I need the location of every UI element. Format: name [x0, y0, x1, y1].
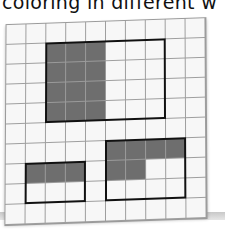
- grid-cell: [186, 118, 206, 139]
- grid-cell: [6, 64, 26, 85]
- grid-cell: [166, 118, 186, 139]
- grid-cell: [186, 38, 206, 59]
- grid-cell: [26, 103, 46, 124]
- grid-cell: [6, 24, 26, 44]
- grid-cell: [146, 199, 166, 220]
- grid-cell: [66, 142, 86, 163]
- grid-cell: [26, 43, 46, 64]
- grid-cell: [26, 63, 46, 84]
- grid-cell: [146, 99, 166, 120]
- grid-cell: [46, 23, 66, 43]
- grid-cell: [86, 201, 106, 222]
- shaded-cell: [166, 138, 186, 159]
- grid-cell: [66, 182, 86, 203]
- shaded-cell: [86, 41, 106, 62]
- shaded-cell: [66, 62, 86, 83]
- shaded-cell: [46, 43, 66, 64]
- grid-cell: [166, 199, 186, 220]
- grid-cell: [126, 180, 146, 201]
- grid-cell: [186, 158, 206, 179]
- grid-cell: [166, 178, 186, 199]
- grid-cell: [146, 79, 166, 100]
- shaded-cell: [86, 81, 106, 102]
- grid-cell: [146, 159, 166, 180]
- grid-cell: [106, 61, 126, 82]
- grid-cell: [166, 98, 186, 119]
- grid-cell: [166, 78, 186, 99]
- grid-cell: [146, 39, 166, 60]
- grid-cell: [106, 201, 126, 222]
- grid-cell: [186, 18, 206, 38]
- grid-cell: [146, 179, 166, 200]
- shaded-cell: [66, 42, 86, 63]
- grid-cell: [26, 83, 46, 104]
- grid-cell: [126, 20, 146, 40]
- grid: [4, 17, 207, 226]
- shaded-cell: [106, 160, 126, 181]
- shaded-cell: [126, 160, 146, 181]
- grid-cell: [26, 24, 46, 44]
- grid-cell: [106, 21, 126, 41]
- grid-cell: [86, 121, 106, 142]
- grid-cell: [26, 143, 46, 164]
- grid-cell: [5, 204, 25, 225]
- grid-cell: [46, 122, 66, 143]
- grid-cell: [126, 120, 146, 141]
- shaded-cell: [66, 82, 86, 103]
- grid-cell: [6, 144, 26, 165]
- grid-cell: [66, 22, 86, 42]
- grid-cell: [46, 142, 66, 163]
- grid-cell: [126, 80, 146, 101]
- shaded-cell: [146, 139, 166, 160]
- grid-cell: [86, 181, 106, 202]
- grid-cell: [126, 200, 146, 221]
- grid-cell: [186, 198, 206, 219]
- grid-cell: [106, 100, 126, 121]
- grid-cell: [146, 20, 166, 40]
- grid-cell: [46, 203, 66, 224]
- shaded-cell: [66, 102, 86, 123]
- grid-cell: [86, 141, 106, 162]
- grid-cell: [6, 124, 26, 145]
- shaded-cell: [66, 162, 86, 183]
- grid-cell: [106, 180, 126, 201]
- grid-cell: [26, 203, 46, 224]
- grid-cell: [106, 41, 126, 62]
- shaded-cell: [86, 61, 106, 82]
- grid-cell: [186, 98, 206, 119]
- grid-cell: [106, 80, 126, 101]
- shaded-cell: [46, 63, 66, 84]
- shaded-cell: [46, 102, 66, 123]
- grid-cell: [126, 60, 146, 81]
- grid-cell: [126, 40, 146, 61]
- shaded-cell: [26, 163, 46, 184]
- shaded-cell: [46, 83, 66, 104]
- grid-cell: [66, 122, 86, 143]
- grid-cell: [186, 178, 206, 199]
- shaded-cell: [106, 140, 126, 161]
- grid-cell: [26, 183, 46, 204]
- grid-cell: [166, 19, 186, 39]
- grid-cell: [186, 78, 206, 99]
- shaded-cell: [86, 101, 106, 122]
- grid-cell: [6, 104, 26, 125]
- grid-cell: [166, 158, 186, 179]
- grid-cell: [6, 164, 26, 185]
- grid-cell: [126, 100, 146, 121]
- grid-paper: [4, 17, 207, 224]
- grid-cell: [86, 161, 106, 182]
- grid-cell: [6, 44, 26, 65]
- grid-cell: [186, 58, 206, 79]
- shaded-cell: [46, 162, 66, 183]
- grid-cell: [166, 58, 186, 79]
- grid-cell: [186, 138, 206, 159]
- shaded-cell: [126, 140, 146, 161]
- grid-cell: [46, 183, 66, 204]
- grid-cell: [6, 184, 26, 205]
- grid-cell: [66, 202, 86, 223]
- caption-text: coloring in different w: [2, 0, 217, 13]
- grid-cell: [146, 59, 166, 80]
- grid-cell: [106, 120, 126, 141]
- grid-cell: [6, 84, 26, 105]
- grid-cell: [166, 39, 186, 60]
